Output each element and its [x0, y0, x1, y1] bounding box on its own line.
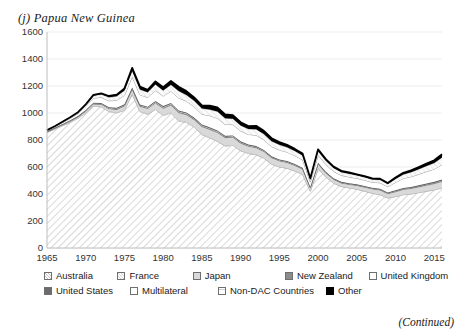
stacked-area-chart — [47, 32, 442, 248]
continued-note: (Continued) — [398, 316, 454, 328]
page-title: (j) Papua New Guinea — [18, 11, 135, 26]
y-tick-label: 1000 — [3, 108, 43, 118]
legend-item-japan[interactable]: Japan — [193, 270, 285, 281]
area-series-group — [47, 68, 442, 248]
legend-label: New Zealand — [297, 270, 353, 281]
legend-row: United StatesMultilateralNon-DAC Countri… — [44, 283, 454, 298]
legend-swatch-solid-light-gray-icon — [193, 272, 201, 280]
legend-item-united-kingdom[interactable]: United Kingdom — [369, 270, 454, 281]
x-tick-label: 2015 — [414, 253, 454, 263]
legend-item-multilateral[interactable]: Multilateral — [130, 285, 218, 296]
y-tick-label: 400 — [3, 189, 43, 199]
legend-item-france[interactable]: France — [117, 270, 192, 281]
legend-label: Non-DAC Countries — [230, 285, 314, 296]
legend-item-other[interactable]: Other — [326, 285, 424, 296]
legend-item-australia[interactable]: Australia — [44, 270, 117, 281]
x-tick-label: 2005 — [337, 253, 377, 263]
legend-swatch-white-outline-icon — [130, 287, 138, 295]
figure-panel: (j) Papua New Guinea 0200400600800100012… — [0, 0, 468, 334]
legend-swatch-solid-dark-gray-icon — [44, 287, 52, 295]
legend-swatch-diagonal-hatch-icon — [44, 272, 52, 280]
legend-label: Other — [338, 285, 362, 296]
y-tick-label: 1200 — [3, 81, 43, 91]
y-tick-label: 1600 — [3, 27, 43, 37]
legend-label: United Kingdom — [381, 270, 449, 281]
legend-label: France — [129, 270, 159, 281]
legend-swatch-solid-black-icon — [326, 287, 334, 295]
x-tick-label: 1995 — [259, 253, 299, 263]
legend-swatch-fine-hatch-icon — [218, 287, 226, 295]
legend-label: Multilateral — [142, 285, 188, 296]
y-tick-label: 200 — [3, 216, 43, 226]
legend-row: AustraliaFranceJapanNew ZealandUnited Ki… — [44, 268, 454, 283]
legend-item-united-states[interactable]: United States — [44, 285, 130, 296]
legend-label: Australia — [56, 270, 93, 281]
legend-swatch-white-outline-icon — [369, 272, 377, 280]
y-tick-label: 1400 — [3, 54, 43, 64]
x-tick-label: 1990 — [221, 253, 261, 263]
x-tick-label: 1965 — [27, 253, 67, 263]
y-tick-label: 600 — [3, 162, 43, 172]
x-tick-label: 2010 — [376, 253, 416, 263]
legend-label: Japan — [205, 270, 231, 281]
legend-item-new-zealand[interactable]: New Zealand — [285, 270, 369, 281]
legend-swatch-light-hatch-icon — [117, 272, 125, 280]
legend-item-non-dac-countries[interactable]: Non-DAC Countries — [218, 285, 326, 296]
x-tick-label: 1985 — [182, 253, 222, 263]
y-tick-label: 800 — [3, 135, 43, 145]
legend-label: United States — [56, 285, 113, 296]
x-tick-label: 1980 — [143, 253, 183, 263]
area-series-australia — [47, 94, 442, 248]
legend-swatch-solid-mid-gray-icon — [285, 272, 293, 280]
x-tick-label: 1970 — [66, 253, 106, 263]
legend: AustraliaFranceJapanNew ZealandUnited Ki… — [44, 268, 454, 298]
x-tick-label: 1975 — [104, 253, 144, 263]
x-tick-label: 2000 — [298, 253, 338, 263]
plot-area — [47, 32, 442, 248]
